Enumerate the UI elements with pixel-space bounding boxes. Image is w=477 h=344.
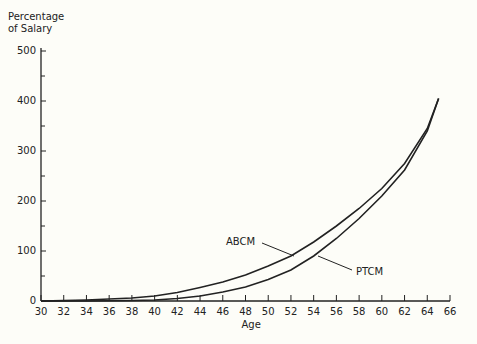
x-tick-label: 54 [307, 306, 320, 317]
x-axis-label: Age [242, 319, 261, 330]
x-tick-label: 30 [35, 306, 48, 317]
x-tick-label: 66 [444, 306, 457, 317]
chart: 0100200300400500303234363840424446485052… [0, 0, 477, 344]
y-axis-label: Percentage [8, 11, 64, 22]
y-axis-label: of Salary [8, 23, 52, 34]
x-tick-label: 48 [239, 306, 252, 317]
annotation-abcm: ABCM [226, 236, 255, 247]
x-tick-label: 56 [330, 306, 343, 317]
x-tick-label: 62 [398, 306, 411, 317]
y-tick-label: 0 [30, 295, 36, 306]
y-tick-label: 500 [17, 45, 36, 56]
x-tick-label: 44 [194, 306, 207, 317]
x-tick-label: 32 [57, 306, 70, 317]
x-tick-label: 52 [285, 306, 298, 317]
x-tick-label: 40 [148, 306, 161, 317]
x-tick-label: 60 [375, 306, 388, 317]
x-tick-label: 36 [103, 306, 116, 317]
x-tick-label: 46 [216, 306, 229, 317]
y-tick-label: 200 [17, 195, 36, 206]
x-tick-label: 34 [80, 306, 93, 317]
annotation-ptcm: PTCM [356, 266, 383, 277]
y-tick-label: 100 [17, 245, 36, 256]
x-tick-label: 64 [421, 306, 434, 317]
y-tick-label: 400 [17, 95, 36, 106]
y-tick-label: 300 [17, 145, 36, 156]
x-tick-label: 42 [171, 306, 184, 317]
x-tick-label: 58 [353, 306, 366, 317]
x-tick-label: 38 [126, 306, 139, 317]
x-tick-label: 50 [262, 306, 275, 317]
